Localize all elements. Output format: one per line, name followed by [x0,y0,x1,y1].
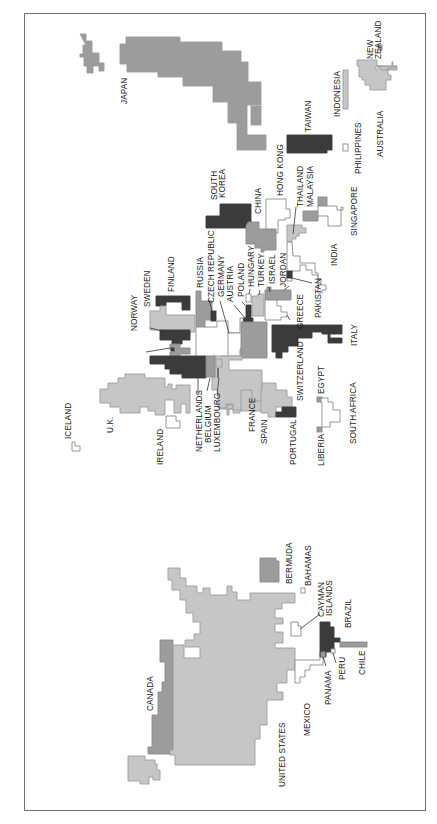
label-italy: ITALY [350,324,359,346]
label-taiwan: TAIWAN [304,100,313,132]
label-israel: ISRAEL [268,254,277,284]
label-india: INDIA [330,243,339,266]
label-singapore: SINGAPORE [350,186,359,236]
label-russia: RUSSIA [196,256,205,288]
label-bermuda: BERMUDA [285,542,294,584]
czech-shape [211,311,216,321]
label-philippines: PHILIPPINES [354,122,363,174]
label-japan: JAPAN [120,78,129,104]
label-norway: NORWAY [130,294,139,331]
label-netherlands: NETHERLANDS [195,389,204,452]
jordan-shape [265,290,291,300]
label-spain: SPAIN [260,420,269,444]
label-hong-kong: HONG KONG [276,144,285,196]
label-new-zealand-2: ZEALAND [374,21,383,59]
bermuda-shape [260,558,279,582]
label-chile: CHILE [358,650,367,675]
label-south-africa: SOUTH AFRICA [349,382,358,444]
label-hungary: HUNGARY [247,245,256,287]
liberia-shape [317,427,322,432]
label-brazil: BRAZIL [344,598,353,628]
label-china: CHINA [254,188,263,214]
denmark-shape [171,348,174,351]
label-panama: PANAMA [324,670,333,705]
label-switzerland: SWITZERLAND [296,341,305,401]
hungary-shape [246,294,251,302]
turkey-shape [252,294,264,316]
label-uk: U.K. [106,417,115,433]
label-thailand: THAILAND [296,166,305,207]
chile-shape [340,642,367,647]
indonesia-shape [343,70,348,109]
label-france: FRANCE [248,397,257,432]
label-portugal: PORTUGAL [289,419,298,465]
label-canada: CANADA [146,676,155,711]
canada-west-shape [128,756,160,784]
switzerland-shape [241,322,267,358]
label-belgium: BELGIUM [204,405,213,443]
malaysia-shape [303,211,318,221]
label-czech: CZECH REPUBLIC [207,230,216,303]
label-australia: AUSTRALIA [376,110,385,157]
malaysia-shape-2 [318,197,327,206]
panama-shape [321,652,325,657]
label-united-states: UNITED STATES [278,722,287,787]
peru-shape [331,649,335,653]
belgium-shape [206,356,215,377]
label-ireland: IRELAND [156,429,165,465]
taiwan-shape [287,135,332,153]
cartogram-map: JAPAN TAIWAN INDONESIA NEW ZEALAND AUSTR… [0,0,437,824]
label-cayman-2: ISLANDS [325,580,334,616]
philippines-shape [343,144,348,151]
label-bahamas: BAHAMAS [304,545,313,586]
label-malaysia: MALAYSIA [306,165,315,207]
label-iceland: ICELAND [64,403,73,439]
label-finland: FINLAND [167,256,176,292]
label-germany: GERMANY [217,254,226,297]
label-greece: GREECE [296,293,305,329]
label-south-korea-2: KOREA [218,168,227,198]
luxembourg-shape [216,359,222,367]
label-indonesia: INDONESIA [333,71,342,117]
label-mexico: MEXICO [303,703,312,736]
label-sweden: SWEDEN [143,270,152,307]
label-pakistan: PAKISTAN [314,278,323,318]
label-egypt: EGYPT [317,366,326,394]
label-peru: PERU [338,657,347,680]
bahamas-shape [301,588,305,593]
label-austria: AUSTRIA [226,265,235,302]
label-jordan: JORDAN [279,253,288,287]
label-poland: POLAND [237,263,246,297]
label-luxembourg: LUXEMBOURG [213,393,222,452]
label-turkey: TURKEY [257,253,266,287]
label-liberia: LIBERIA [317,433,326,466]
